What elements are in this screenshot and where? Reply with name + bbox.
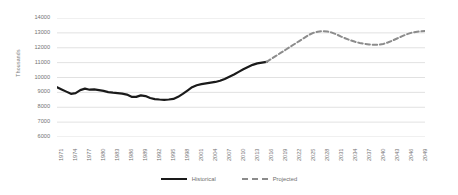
gridlines [57, 18, 425, 137]
y-axis-tick-labels: 6000700080009000100001100012000130001400… [0, 0, 54, 195]
x-tick-label: 2034 [353, 149, 359, 161]
y-tick-label: 12000 [34, 45, 50, 51]
x-tick-label: 2046 [409, 149, 415, 161]
x-tick-label: 2040 [381, 149, 387, 161]
legend-label-projected: Projected [273, 176, 298, 182]
x-tick-label: 1983 [115, 149, 121, 161]
x-tick-label: 2028 [325, 149, 331, 161]
y-tick-label: 10000 [34, 75, 50, 81]
x-tick-label: 2043 [395, 149, 401, 161]
y-tick-label: 13000 [34, 30, 50, 36]
x-tick-label: 2022 [297, 149, 303, 161]
x-tick-label: 2049 [423, 149, 429, 161]
x-tick-label: 1995 [171, 149, 177, 161]
x-tick-label: 2010 [241, 149, 247, 161]
x-tick-label: 1989 [143, 149, 149, 161]
plot-svg [57, 18, 425, 137]
y-tick-label: 14000 [34, 15, 50, 21]
x-tick-label: 2019 [283, 149, 289, 161]
x-tick-label: 2031 [339, 149, 345, 161]
series-line-historical [57, 62, 267, 100]
legend-label-historical: Historical [192, 176, 216, 182]
legend-item-projected[interactable]: Projected [242, 176, 298, 182]
plot-area [57, 18, 425, 137]
y-tick-label: 11000 [35, 60, 50, 66]
x-tick-label: 1992 [157, 149, 163, 161]
x-tick-label: 2001 [199, 149, 205, 161]
x-axis-tick-labels: 1971197419771980198319861989199219951998… [57, 139, 425, 169]
x-tick-label: 2037 [367, 149, 373, 161]
legend-item-historical[interactable]: Historical [161, 176, 216, 182]
dashed-line-icon [242, 178, 268, 180]
x-tick-label: 2007 [227, 149, 233, 161]
y-tick-label: 6000 [38, 134, 50, 140]
x-tick-label: 1977 [87, 149, 93, 161]
x-tick-label: 1986 [129, 149, 135, 161]
chart-legend: Historical Projected [0, 176, 458, 182]
y-tick-label: 9000 [38, 89, 50, 95]
x-tick-label: 2016 [269, 149, 275, 161]
line-chart: Thousands 600070008000900010000110001200… [0, 0, 458, 195]
solid-line-icon [161, 178, 187, 180]
x-tick-label: 1980 [101, 149, 107, 161]
x-tick-label: 2025 [311, 149, 317, 161]
series-line-projected [267, 31, 425, 62]
y-tick-label: 8000 [38, 104, 50, 110]
series-lines [57, 31, 425, 100]
x-tick-label: 1998 [185, 149, 191, 161]
x-tick-label: 1974 [73, 149, 79, 161]
x-tick-label: 2013 [255, 149, 261, 161]
x-tick-label: 1971 [59, 149, 65, 161]
x-tick-label: 2004 [213, 149, 219, 161]
y-tick-label: 7000 [38, 119, 50, 125]
